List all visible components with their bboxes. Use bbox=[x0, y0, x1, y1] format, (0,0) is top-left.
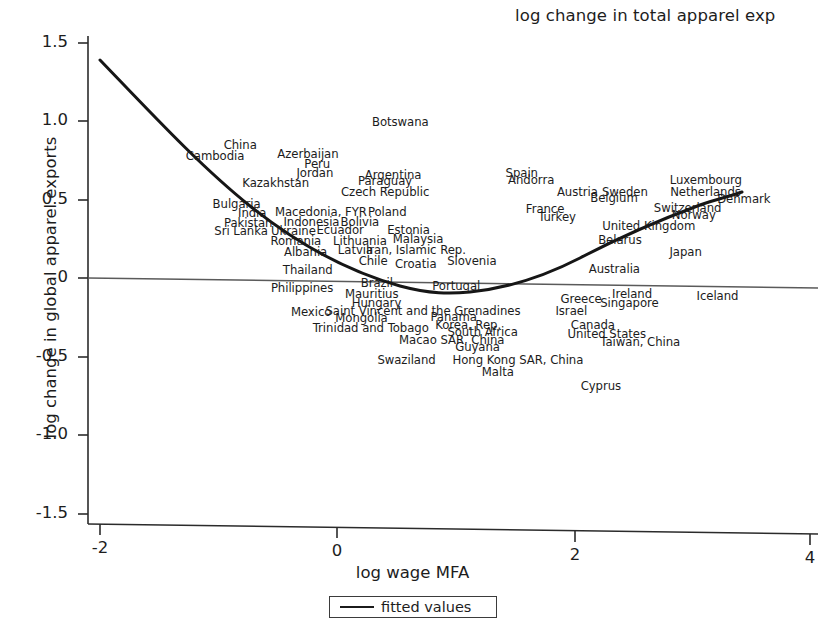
data-point-label: Cambodia bbox=[186, 150, 245, 163]
data-point-label: Sri Lanka bbox=[214, 225, 268, 238]
data-point-label: Iceland bbox=[697, 290, 739, 303]
data-point-label: Czech Republic bbox=[341, 186, 429, 199]
data-point-labels: ChinaCambodiaAzerbaijanPeruJordanKazakhs… bbox=[0, 0, 825, 621]
data-point-label: Belgium bbox=[590, 192, 638, 205]
data-point-label: Hong Kong SAR, China bbox=[453, 354, 584, 367]
data-point-label: Botswana bbox=[372, 116, 429, 129]
data-point-label: Cyprus bbox=[581, 380, 622, 393]
data-point-label: Israel bbox=[555, 305, 587, 318]
data-point-label: Philippines bbox=[271, 282, 333, 295]
data-point-label: Kazakhstan bbox=[242, 177, 309, 190]
chart-canvas: log change in total apparel exp log chan… bbox=[0, 0, 825, 621]
legend: fitted values bbox=[329, 596, 497, 618]
data-point-label: Slovenia bbox=[447, 255, 496, 268]
fitted-values-line-icon bbox=[340, 606, 374, 608]
data-point-label: Portugal bbox=[432, 280, 480, 293]
data-point-label: Andorra bbox=[508, 174, 554, 187]
data-point-label: Denmark bbox=[717, 193, 770, 206]
data-point-label: Belarus bbox=[598, 234, 642, 247]
data-point-label: United Kingdom bbox=[602, 220, 695, 233]
data-point-label: Malta bbox=[482, 366, 514, 379]
data-point-label: Australia bbox=[589, 263, 640, 276]
data-point-label: Swaziland bbox=[377, 354, 435, 367]
data-point-label: Thailand bbox=[283, 264, 333, 277]
data-point-label: Croatia bbox=[395, 258, 437, 271]
data-point-label: Chile bbox=[359, 255, 388, 268]
data-point-label: Taiwan, China bbox=[600, 336, 680, 349]
data-point-label: Singapore bbox=[600, 297, 659, 310]
legend-label-fitted-values: fitted values bbox=[381, 599, 471, 615]
data-point-label: Albania bbox=[284, 246, 327, 259]
data-point-label: Japan bbox=[669, 246, 701, 259]
data-point-label: Turkey bbox=[538, 211, 576, 224]
